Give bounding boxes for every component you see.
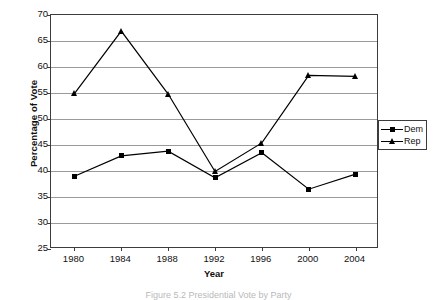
data-point-dem-1984 bbox=[119, 153, 124, 158]
chart-legend[interactable]: DemRep bbox=[378, 120, 427, 150]
x-axis-tick-labels: 1980198419881992199620002004 bbox=[50, 253, 378, 267]
data-point-rep-1984 bbox=[118, 28, 124, 34]
data-point-rep-2000 bbox=[305, 72, 311, 78]
y-tick-label: 45 bbox=[22, 139, 48, 149]
data-point-rep-1996 bbox=[258, 140, 264, 146]
data-point-dem-1992 bbox=[213, 175, 218, 180]
y-tick-label: 30 bbox=[22, 217, 48, 227]
legend-marker-square-icon bbox=[381, 124, 403, 134]
data-point-rep-1980 bbox=[71, 90, 77, 96]
y-tick-label: 65 bbox=[22, 35, 48, 45]
data-point-dem-1996 bbox=[259, 150, 264, 155]
series-lines bbox=[51, 15, 379, 249]
plot-area bbox=[50, 14, 378, 248]
y-tick-label: 60 bbox=[22, 61, 48, 71]
x-tick-label: 2000 bbox=[284, 253, 332, 264]
y-tick-label: 55 bbox=[22, 87, 48, 97]
y-tick-mark bbox=[47, 249, 51, 250]
legend-label: Dem bbox=[403, 124, 423, 134]
x-tick-label: 1992 bbox=[190, 253, 238, 264]
y-tick-label: 70 bbox=[22, 9, 48, 19]
x-tick-label: 1996 bbox=[237, 253, 285, 264]
y-axis-tick-labels: 25303540455055606570 bbox=[18, 0, 48, 299]
data-point-dem-2004 bbox=[353, 172, 358, 177]
y-tick-label: 35 bbox=[22, 191, 48, 201]
data-point-rep-1992 bbox=[212, 168, 218, 174]
x-tick-label: 1984 bbox=[96, 253, 144, 264]
x-tick-label: 1980 bbox=[49, 253, 97, 264]
data-point-dem-1980 bbox=[72, 174, 77, 179]
y-tick-label: 40 bbox=[22, 165, 48, 175]
legend-label: Rep bbox=[403, 136, 421, 146]
series-line-rep bbox=[74, 31, 355, 171]
figure-caption: Figure 5.2 Presidential Vote by Party bbox=[0, 290, 437, 300]
x-axis-title: Year bbox=[50, 268, 378, 279]
legend-item-dem[interactable]: Dem bbox=[381, 123, 423, 135]
y-tick-label: 50 bbox=[22, 113, 48, 123]
legend-item-rep[interactable]: Rep bbox=[381, 135, 423, 147]
data-point-dem-1988 bbox=[166, 149, 171, 154]
data-point-dem-2000 bbox=[306, 187, 311, 192]
data-point-rep-2004 bbox=[352, 73, 358, 79]
data-point-rep-1988 bbox=[165, 91, 171, 97]
legend-marker-triangle-icon bbox=[381, 136, 403, 146]
x-tick-label: 2004 bbox=[331, 253, 379, 264]
y-tick-label: 25 bbox=[22, 243, 48, 253]
x-tick-label: 1988 bbox=[143, 253, 191, 264]
